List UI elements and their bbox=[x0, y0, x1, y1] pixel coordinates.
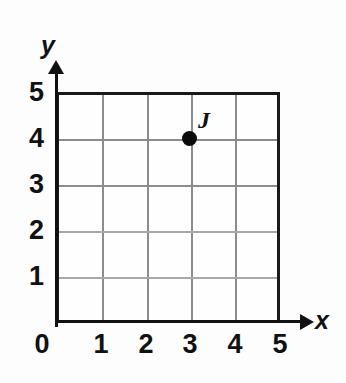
y-tick-label-3: 3 bbox=[18, 171, 44, 198]
y-axis-arrow-icon bbox=[48, 60, 64, 74]
gridline-horizontal-y4 bbox=[59, 139, 277, 141]
gridline-vertical-x1 bbox=[102, 95, 104, 320]
plotted-point-j bbox=[182, 131, 197, 146]
gridline-vertical-x4 bbox=[235, 95, 237, 320]
y-tick-label-4: 4 bbox=[18, 125, 44, 152]
y-tick-label-2: 2 bbox=[18, 217, 44, 244]
x-tick-label-3: 3 bbox=[175, 331, 205, 358]
y-axis-line bbox=[55, 68, 58, 327]
x-tick-label-2: 2 bbox=[131, 331, 161, 358]
x-tick-label-0: 0 bbox=[27, 331, 57, 358]
x-tick-label-4: 4 bbox=[220, 331, 250, 358]
gridline-horizontal-y3 bbox=[59, 185, 277, 187]
x-axis-label: x bbox=[315, 308, 329, 333]
y-tick-label-5: 5 bbox=[18, 79, 44, 106]
coordinate-grid-figure: y x 5 4 3 2 1 0 1 2 3 4 5 J bbox=[0, 0, 346, 383]
y-tick-label-1: 1 bbox=[18, 263, 44, 290]
x-axis-line bbox=[56, 320, 305, 323]
y-axis-label: y bbox=[41, 33, 55, 58]
gridline-vertical-x2 bbox=[147, 95, 149, 320]
x-axis-arrow-icon bbox=[300, 314, 314, 330]
x-tick-label-1: 1 bbox=[86, 331, 116, 358]
gridline-horizontal-y2 bbox=[59, 231, 277, 233]
gridline-vertical-x3 bbox=[191, 95, 193, 320]
x-tick-label-5: 5 bbox=[265, 331, 295, 358]
plotted-point-j-label: J bbox=[198, 108, 210, 132]
plot-area bbox=[56, 92, 280, 323]
gridline-horizontal-y1 bbox=[59, 277, 277, 279]
